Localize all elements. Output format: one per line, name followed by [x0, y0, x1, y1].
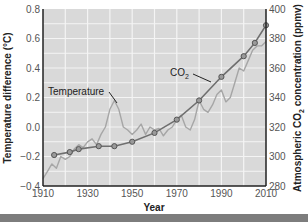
y-left-tick-label: 0.0 — [26, 122, 40, 133]
co2-data-point — [76, 147, 81, 152]
co2-data-point — [174, 117, 179, 122]
temperature-annotation: Temperature — [48, 86, 105, 97]
y-axis-left-title: Temperature difference (°C) — [2, 32, 13, 163]
co2-data-point — [252, 40, 257, 45]
x-tick-label: 1970 — [166, 188, 189, 199]
co2-data-point — [152, 130, 157, 135]
x-axis-title: Year — [0, 202, 308, 213]
co2-data-point — [197, 98, 202, 103]
y-left-tick-label: 0.8 — [26, 4, 40, 15]
co2-data-point — [241, 54, 246, 59]
y-axis-right-title: Atmospheric CO2 concentration (ppmv) — [292, 4, 305, 192]
y-left-tick-label: 0.6 — [26, 33, 40, 44]
y-right-tick-label: 320 — [269, 122, 286, 133]
y-left-tick-label: 0.2 — [26, 92, 40, 103]
co2-data-point — [219, 74, 224, 79]
co2-data-point — [52, 152, 57, 157]
bottom-divider — [0, 214, 308, 222]
x-tick-label: 1930 — [76, 188, 99, 199]
co2-data-point — [96, 144, 101, 149]
y-right-tick-label: 280 — [269, 181, 286, 192]
y-right-tick-label: 360 — [269, 63, 286, 74]
chart-canvas: 191019301950197019902010−0.4−0.20.00.20.… — [0, 0, 308, 222]
y-right-tick-label: 300 — [269, 151, 286, 162]
x-tick-label: 1950 — [121, 188, 144, 199]
y-right-tick-label: 380 — [269, 33, 286, 44]
co2-data-point — [67, 149, 72, 154]
y-right-tick-label: 400 — [269, 4, 286, 15]
co2-data-point — [130, 139, 135, 144]
y-left-tick-label: 0.4 — [26, 63, 40, 74]
y-right-tick-label: 340 — [269, 92, 286, 103]
co2-data-point — [112, 144, 117, 149]
x-tick-label: 1990 — [210, 188, 233, 199]
y-left-tick-label: −0.4 — [20, 181, 40, 192]
y-left-tick-label: −0.2 — [20, 151, 40, 162]
